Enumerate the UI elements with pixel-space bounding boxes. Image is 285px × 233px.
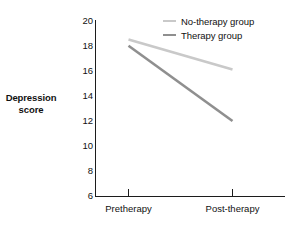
series-line-0 [129, 39, 233, 69]
chart-legend: No-therapy groupTherapy group [163, 14, 254, 42]
legend-item[interactable]: Therapy group [163, 28, 254, 42]
legend-item[interactable]: No-therapy group [163, 14, 254, 28]
legend-label: No-therapy group [181, 16, 254, 27]
series-line-1 [129, 46, 233, 121]
chart-figure: Depression score 20181614121086 Prethera… [0, 0, 285, 233]
legend-label: Therapy group [181, 30, 242, 41]
legend-swatch-icon [163, 20, 176, 23]
legend-swatch-icon [163, 34, 176, 37]
